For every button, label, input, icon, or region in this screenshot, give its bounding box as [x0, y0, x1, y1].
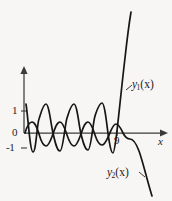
figure-container: 1 0 -1 9 x y1(x) y2(x): [0, 0, 172, 201]
curve-label-y1-arg: (x): [140, 78, 153, 90]
curve-label-y1: y1(x): [132, 79, 154, 92]
curve-label-y2: y2(x): [107, 167, 129, 180]
curve-label-y2-arg: (x): [115, 166, 128, 178]
leader-line-y2: [139, 172, 145, 177]
plot-canvas: [0, 0, 172, 201]
y-axis-arrowhead: [20, 66, 27, 74]
y-tick-label-minus-1: -1: [6, 142, 15, 153]
y-tick-label-1: 1: [12, 105, 18, 116]
curve-y1: [26, 12, 131, 153]
x-tick-label-9: 9: [114, 135, 120, 146]
x-axis-label: x: [158, 136, 163, 147]
y-tick-label-0: 0: [12, 127, 18, 138]
